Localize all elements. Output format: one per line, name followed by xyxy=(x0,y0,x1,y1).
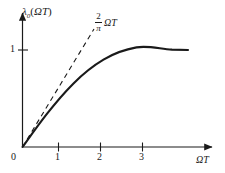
x-axis-title: ΩT xyxy=(196,155,209,165)
y-axis-close-paren: ) xyxy=(48,5,52,17)
asymptote-slope-label: 2 π ΩT xyxy=(95,12,117,33)
x-tick-label-3: 3 xyxy=(139,152,144,162)
slope-variables: ΩT xyxy=(104,18,117,28)
lambda-curve xyxy=(23,47,189,147)
fraction-denominator: π xyxy=(95,23,102,33)
y-axis-title: λ0(ΩT) xyxy=(22,6,52,20)
y-axis-argument: ΩT xyxy=(34,5,48,17)
origin-label: 0 xyxy=(11,152,16,162)
x-tick-label-2: 2 xyxy=(97,152,102,162)
y-tick-label-1: 1 xyxy=(10,44,15,54)
x-tick-label-1: 1 xyxy=(55,152,60,162)
figure-container: λ0(ΩT) ΩT 2 π ΩT 1 1 2 3 0 xyxy=(0,0,225,173)
fraction-two-over-pi: 2 π xyxy=(95,12,102,33)
slope-dashed-line xyxy=(23,29,95,147)
fraction-numerator: 2 xyxy=(95,12,102,22)
